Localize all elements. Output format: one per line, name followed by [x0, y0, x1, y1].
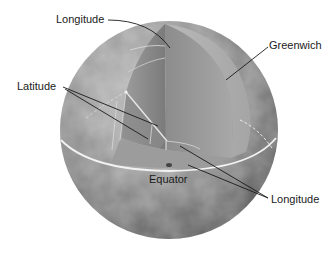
label-longitude-bottom: Longitude — [271, 193, 319, 205]
label-greenwich: Greenwich — [269, 39, 322, 51]
label-equator: Equator — [149, 173, 188, 185]
label-latitude: Latitude — [17, 80, 56, 92]
globe-diagram: Longitude Greenwich Latitude Equator Lon… — [0, 0, 336, 259]
label-longitude-top: Longitude — [56, 13, 104, 25]
origin-marker — [166, 163, 172, 167]
